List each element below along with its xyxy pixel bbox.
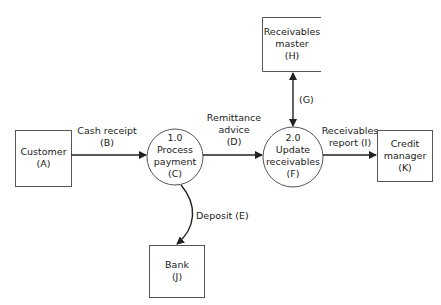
process-number: 1.0: [145, 132, 205, 144]
deposit-arrow: [177, 185, 193, 244]
process-line1: Process: [145, 144, 205, 156]
store-line2: master: [262, 38, 322, 50]
flow-line1: Remittance: [205, 112, 263, 124]
customer-label: Customer (A): [15, 146, 72, 170]
flow-line1: Cash receipt: [76, 125, 138, 137]
process-code: (F): [258, 168, 328, 180]
credit-manager-line2: manager: [377, 150, 433, 162]
customer-name: Customer: [15, 146, 72, 158]
bank-label: Bank (J): [149, 259, 205, 283]
process-number: 2.0: [258, 132, 328, 144]
process-line2: payment: [145, 156, 205, 168]
receivables-report-label: Receivables report (I): [319, 125, 381, 149]
remittance-advice-label: Remittance advice (D): [205, 112, 263, 148]
flow-line1: Receivables: [319, 125, 381, 137]
bank-code: (J): [149, 271, 205, 283]
flow-code: (D): [205, 136, 263, 148]
customer-code: (A): [15, 158, 72, 170]
cash-receipt-label: Cash receipt (B): [76, 125, 138, 149]
update-receivables-label: 2.0 Update receivables (F): [258, 132, 328, 180]
flow-code: (B): [76, 137, 138, 149]
flow-line1: Deposit (E): [196, 210, 249, 221]
process-line1: Update: [258, 144, 328, 156]
credit-manager-label: Credit manager (K): [377, 138, 433, 174]
flow-line2: report (I): [319, 137, 381, 149]
process-line2: receivables: [258, 156, 328, 168]
flow-line2: advice: [205, 124, 263, 136]
store-code: (H): [262, 50, 322, 62]
credit-manager-code: (K): [377, 162, 433, 174]
receivables-master-label: Receivables master (H): [262, 26, 322, 62]
store-link-label: (G): [299, 94, 314, 106]
store-line1: Receivables: [262, 26, 322, 38]
process-code: (C): [145, 168, 205, 180]
bank-name: Bank: [149, 259, 205, 271]
credit-manager-line1: Credit: [377, 138, 433, 150]
process-payment-label: 1.0 Process payment (C): [145, 132, 205, 180]
flow-code: (G): [299, 94, 314, 105]
deposit-label: Deposit (E): [196, 210, 249, 222]
